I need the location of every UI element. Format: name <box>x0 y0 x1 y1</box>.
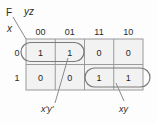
cell-x0-yz00: 1 <box>26 48 55 58</box>
corner-divider-line <box>13 17 26 39</box>
cell-x0-yz10: 0 <box>114 48 143 58</box>
group-label-xy: xy <box>119 104 128 114</box>
cell-x1-yz01: 0 <box>55 73 84 83</box>
cell-x1-yz11: 1 <box>85 73 114 83</box>
column-variable-label: yz <box>24 7 34 17</box>
function-label: F <box>6 8 12 18</box>
column-header-01: 01 <box>55 27 84 37</box>
row-header-0: 0 <box>12 48 22 58</box>
row-variable-label: x <box>7 24 12 34</box>
column-header-11: 11 <box>85 27 114 37</box>
column-header-10: 10 <box>114 27 143 37</box>
kmap-diagram: F yz x 00 01 11 10 0 1 1 1 0 0 0 0 1 1 x… <box>0 0 157 123</box>
group-label-x-prime-y-prime: x'y' <box>41 104 53 114</box>
column-header-00: 00 <box>26 27 55 37</box>
row-header-1: 1 <box>12 73 22 83</box>
kmap-vector-layer <box>0 0 157 123</box>
cell-x1-yz10: 1 <box>114 73 143 83</box>
cell-x1-yz00: 0 <box>26 73 55 83</box>
cell-x0-yz01: 1 <box>55 48 84 58</box>
cell-x0-yz11: 0 <box>85 48 114 58</box>
